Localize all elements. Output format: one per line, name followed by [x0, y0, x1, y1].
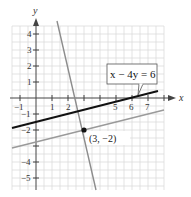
- y-tick-label: −5: [21, 173, 31, 183]
- perpendicular-line: [57, 21, 96, 190]
- point-label: (3, −2): [89, 133, 116, 145]
- y-tick-label: −1: [21, 109, 31, 119]
- y-tick-label: 3: [27, 45, 32, 55]
- y-tick-label: 1: [27, 77, 32, 87]
- x-axis-label: x: [178, 92, 184, 103]
- y-tick-label: 2: [27, 61, 32, 71]
- intersection-point: [81, 127, 86, 132]
- y-tick-label: −4: [21, 157, 31, 167]
- x-tick-label: 6: [129, 102, 134, 112]
- x-tick-label: 2: [66, 102, 71, 112]
- equation-label: x − 4y = 6: [110, 68, 156, 80]
- coordinate-graph: y x −1 1 2 5 6 7 4 3 2 1 −1 −2 −4 −5 (3,…: [0, 0, 191, 197]
- y-axis-arrow-icon: [33, 18, 39, 26]
- x-axis-arrow-icon: [168, 95, 176, 101]
- y-tick-label: 4: [27, 29, 32, 39]
- x-tick-label: 5: [113, 102, 118, 112]
- x-tick-label: 7: [145, 102, 150, 112]
- y-tick-label: −2: [21, 125, 31, 135]
- given-line: [12, 91, 158, 128]
- x-tick-label: 1: [50, 102, 55, 112]
- y-axis-label: y: [32, 5, 38, 16]
